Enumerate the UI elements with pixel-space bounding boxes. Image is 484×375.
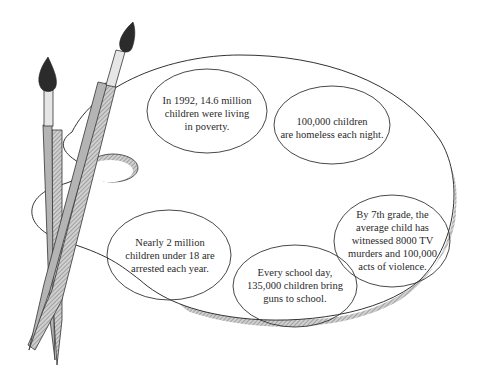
brush-tip bbox=[120, 22, 135, 52]
fact-homeless: 100,000 children are homeless each night… bbox=[272, 115, 392, 141]
brush-ferrule bbox=[44, 90, 53, 126]
palette-artwork bbox=[0, 0, 484, 375]
fact-arrests: Nearly 2 million children under 18 are a… bbox=[110, 236, 230, 275]
brush-ferrule bbox=[106, 50, 125, 87]
fact-poverty: In 1992, 14.6 million children were livi… bbox=[147, 94, 267, 133]
fact-guns: Every school day, 135,000 children bring… bbox=[235, 266, 355, 305]
brush-tip bbox=[39, 57, 57, 92]
palette-illustration: In 1992, 14.6 million children were livi… bbox=[0, 0, 484, 375]
fact-tv-violence: By 7th grade, the average child has witn… bbox=[335, 208, 450, 273]
